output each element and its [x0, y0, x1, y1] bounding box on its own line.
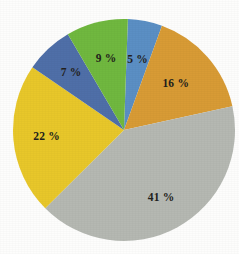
pie-slice-label-2: 16 %: [162, 77, 189, 89]
pie-slice-label-1: 5 %: [127, 53, 148, 65]
pie-slice-label-6: 9 %: [96, 52, 117, 64]
pie-chart-svg: 5 %16 %41 %22 %7 %9 %: [0, 0, 239, 254]
pie-slice-label-3: 41 %: [148, 191, 175, 203]
pie-slice-label-4: 22 %: [33, 130, 60, 142]
pie-chart-figure: 5 %16 %41 %22 %7 %9 %: [0, 0, 239, 254]
pie-slice-label-5: 7 %: [61, 66, 82, 78]
